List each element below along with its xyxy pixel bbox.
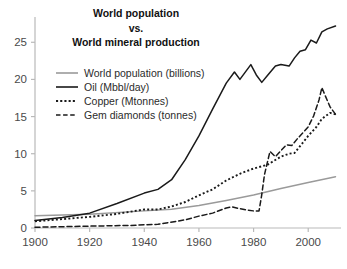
y-axis-tick-label: 10 — [14, 148, 27, 160]
x-axis-tick-label: 1980 — [241, 236, 267, 248]
x-axis-tick-label: 1960 — [186, 236, 212, 248]
chart-title-line-3: World mineral production — [48, 35, 224, 50]
legend-swatch-solid-gray-icon — [56, 68, 78, 78]
series-line-1 — [35, 26, 336, 221]
legend-item-gem-diamonds: Gem diamonds (tonnes) — [56, 108, 205, 122]
chart-title-line-1: World population — [48, 6, 224, 21]
legend-item-world-population: World population (billions) — [56, 66, 205, 80]
x-axis-tick-label: 1900 — [22, 236, 48, 248]
legend-label-oil: Oil (Mbbl/day) — [84, 81, 149, 93]
legend-swatch-solid-black-icon — [56, 82, 78, 92]
chart-title: World population vs. World mineral produ… — [48, 6, 224, 50]
y-axis-tick-label: 0 — [21, 222, 27, 234]
chart-legend: World population (billions) Oil (Mbbl/da… — [56, 66, 205, 122]
y-axis-tick-label: 15 — [14, 111, 27, 123]
x-axis-tick-label: 1940 — [131, 236, 157, 248]
legend-label-copper: Copper (Mtonnes) — [84, 95, 169, 107]
y-axis-tick-label: 20 — [14, 73, 27, 85]
series-line-0 — [35, 177, 336, 216]
legend-item-oil: Oil (Mbbl/day) — [56, 80, 205, 94]
chart-container: 0510152025190019201940196019802000 World… — [0, 0, 347, 269]
chart-title-line-2: vs. — [48, 21, 224, 36]
x-axis-tick-label: 2000 — [295, 236, 321, 248]
legend-label-world-population: World population (billions) — [84, 67, 205, 79]
legend-swatch-dotted-icon — [56, 96, 78, 106]
series-line-2 — [35, 113, 336, 221]
x-axis-tick-label: 1920 — [77, 236, 103, 248]
legend-item-copper: Copper (Mtonnes) — [56, 94, 205, 108]
legend-swatch-dashed-icon — [56, 110, 78, 120]
y-axis-tick-label: 25 — [14, 36, 27, 48]
y-axis-tick-label: 5 — [21, 185, 27, 197]
legend-label-gem-diamonds: Gem diamonds (tonnes) — [84, 109, 197, 121]
